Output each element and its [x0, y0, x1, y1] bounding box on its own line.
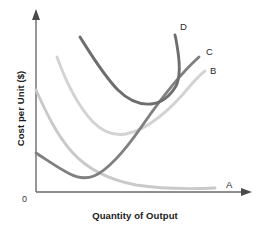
- x-axis-arrowhead: [241, 188, 252, 196]
- curve-label-c: C: [206, 46, 213, 57]
- cost-curves-chart: Cost per Unit ($) Quantity of Output 0 A…: [0, 0, 263, 232]
- curve-a-path: [36, 90, 215, 189]
- curve-label-b: B: [210, 65, 216, 76]
- y-axis-label: Cost per Unit ($): [15, 54, 26, 164]
- curve-label-d: D: [180, 21, 187, 32]
- origin-label: 0: [22, 194, 27, 204]
- curve-c-path: [36, 57, 199, 178]
- x-axis-label: Quantity of Output: [60, 210, 210, 221]
- curve-b-path: [57, 57, 205, 135]
- chart-canvas: [0, 0, 263, 232]
- y-axis-arrowhead: [32, 9, 40, 20]
- curve-label-a: A: [226, 179, 232, 190]
